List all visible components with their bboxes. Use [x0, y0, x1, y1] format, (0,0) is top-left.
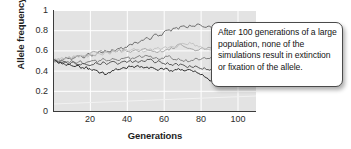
y-tick-label-0.4: 0.4: [22, 66, 48, 76]
x-tick-label-100: 100: [225, 114, 251, 124]
y-tick-label-0.8: 0.8: [22, 25, 48, 35]
x-tick-label-40: 40: [114, 114, 140, 124]
x-tick-label-80: 80: [188, 114, 214, 124]
y-tick-label-0.6: 0.6: [22, 45, 48, 55]
x-tick-label-20: 20: [77, 114, 103, 124]
x-tick-label-60: 60: [151, 114, 177, 124]
annotation-callout-text: After 100 generations of a large populat…: [218, 27, 337, 74]
annotation-callout: After 100 generations of a large populat…: [211, 22, 343, 87]
y-axis-title: Allele frequency: [15, 0, 26, 82]
allele-frequency-chart-figure: 1 0.8 0.6 0.4 0.2 0 20 40 60 80 100 Alle…: [0, 0, 351, 149]
y-tick-label-0: 0: [22, 106, 48, 116]
y-tick-label-1: 1: [22, 5, 48, 15]
y-tick-label-0.2: 0.2: [22, 86, 48, 96]
x-axis-title: Generations: [95, 130, 215, 141]
